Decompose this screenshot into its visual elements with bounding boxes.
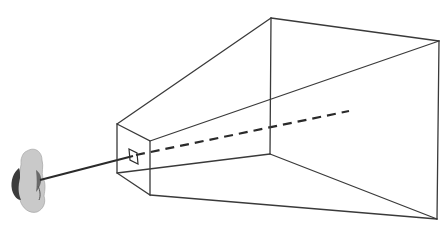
frustum-edge-top-left (117, 18, 271, 124)
frustum-edge-bottom-left (117, 154, 270, 173)
line-of-sight (40, 156, 133, 180)
observer-head-icon (11, 149, 45, 212)
far-plane-left-edge (270, 18, 271, 154)
far-plane-bottom-edge (270, 154, 437, 219)
far-plane-top-edge (271, 18, 439, 41)
frustum-edge-top-right (150, 41, 439, 141)
far-plane-right-edge (437, 41, 439, 219)
view-axis-dashed (136, 111, 349, 155)
viewing-frustum-diagram (0, 0, 445, 232)
frustum-edge-bottom-right (150, 195, 437, 219)
